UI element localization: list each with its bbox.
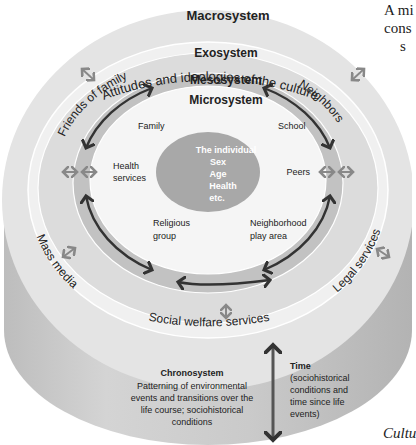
margin-text-line-2: cons bbox=[384, 20, 412, 37]
micro-item-neighborhood-line2: play area bbox=[250, 231, 287, 241]
individual-core bbox=[156, 132, 260, 212]
exosystem-title: Exosystem bbox=[194, 46, 257, 60]
margin-text-line-1: A mi bbox=[384, 2, 414, 19]
svg-text:Health: Health bbox=[209, 181, 237, 191]
macrosystem-title: Macrosystem bbox=[186, 8, 269, 23]
svg-text:Time: Time bbox=[290, 361, 311, 371]
svg-text:time since life: time since life bbox=[290, 397, 345, 407]
micro-item-peers: Peers bbox=[286, 167, 310, 177]
svg-text:Chronosystem: Chronosystem bbox=[160, 368, 223, 378]
margin-text-line-3: s bbox=[400, 38, 406, 55]
svg-text:life course; sociohistorical: life course; sociohistorical bbox=[141, 405, 244, 415]
svg-text:events and transitions over th: events and transitions over the bbox=[131, 393, 254, 403]
svg-text:Age: Age bbox=[209, 169, 226, 179]
micro-item-school: School bbox=[278, 121, 306, 131]
svg-text:(sociohistorical: (sociohistorical bbox=[290, 373, 350, 383]
svg-text:Patterning of environmental: Patterning of environmental bbox=[137, 381, 247, 391]
svg-text:etc.: etc. bbox=[209, 193, 225, 203]
svg-text:events): events) bbox=[290, 409, 320, 419]
micro-item-religious-group-line2: group bbox=[153, 231, 176, 241]
micro-item-health-services-line2: services bbox=[113, 173, 147, 183]
svg-text:conditions: conditions bbox=[172, 417, 213, 427]
micro-item-family: Family bbox=[138, 121, 165, 131]
microsystem-title: Microsystem bbox=[189, 93, 262, 107]
svg-text:Sex: Sex bbox=[210, 157, 226, 167]
mesosystem-title: Mesosystem bbox=[190, 73, 262, 87]
micro-item-neighborhood-line1: Neighborhood bbox=[250, 218, 307, 228]
margin-text-bottom: Cultu bbox=[383, 425, 416, 442]
svg-text:conditions and: conditions and bbox=[290, 385, 348, 395]
micro-item-religious-group-line1: Religious bbox=[153, 218, 191, 228]
micro-item-health-services-line1: Health bbox=[113, 161, 139, 171]
svg-text:The individual: The individual bbox=[196, 145, 257, 155]
